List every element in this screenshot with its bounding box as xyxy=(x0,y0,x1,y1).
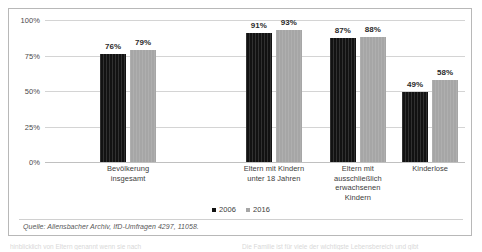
bar-2006-0 xyxy=(100,54,126,162)
legend-swatch-icon xyxy=(212,208,216,212)
bar-value-label: 79% xyxy=(135,38,151,47)
legend-item-2016[interactable]: 2016 xyxy=(246,205,270,214)
bar-2016-1 xyxy=(276,30,302,162)
chart-frame: 100%75%50%25%0%76%91%87%49%79%93%88%58% … xyxy=(8,8,472,236)
chart-legend: 20062016 xyxy=(9,205,473,214)
category-label-1: Eltern mit Kindern unter 18 Jahren xyxy=(244,164,305,183)
bar-value-label: 88% xyxy=(365,25,381,34)
category-label-2: Eltern mit ausschließlich erwachsenen Ki… xyxy=(334,164,382,202)
bar-value-label: 93% xyxy=(281,18,297,27)
bar-2016-2 xyxy=(360,37,386,162)
bar-value-label: 76% xyxy=(105,42,121,51)
legend-label: 2006 xyxy=(219,205,236,214)
bar-value-label: 87% xyxy=(335,26,351,35)
figure-root: 100%75%50%25%0%76%91%87%49%79%93%88%58% … xyxy=(0,0,482,252)
footer-text-left: hinblicklich von Eltern genannt wenn sie… xyxy=(10,243,225,250)
bar-value-label: 49% xyxy=(407,80,423,89)
legend-label: 2016 xyxy=(253,205,270,214)
bar-value-label: 58% xyxy=(437,68,453,77)
y-axis-tick-label: 50% xyxy=(25,87,40,96)
category-label-0: Bevölkerung insgesamt xyxy=(107,164,149,183)
bar-2006-1 xyxy=(246,33,272,162)
y-axis-tick-label: 25% xyxy=(25,122,40,131)
bar-2006-3 xyxy=(402,92,428,162)
bar-2016-3 xyxy=(432,80,458,162)
bar-2006-2 xyxy=(330,38,356,162)
y-axis-tick-label: 75% xyxy=(25,51,40,60)
category-label-3: Kinderlose xyxy=(412,164,448,174)
y-axis-tick-label: 100% xyxy=(20,16,40,25)
bar-value-label: 91% xyxy=(251,21,267,30)
footer-text-band: hinblicklich von Eltern genannt wenn sie… xyxy=(10,243,472,251)
gridline-0 xyxy=(45,162,465,163)
x-axis-category-labels: Bevölkerung insgesamtEltern mit Kindern … xyxy=(45,164,465,210)
y-axis-tick-label: 0% xyxy=(29,158,40,167)
plot-area: 100%75%50%25%0%76%91%87%49%79%93%88%58% xyxy=(45,20,465,162)
footer-text-right: Die Familie ist für viele der wichtigste… xyxy=(242,243,472,250)
source-note: Quelle: Allensbacher Archiv, IfD-Umfrage… xyxy=(23,223,199,230)
source-separator xyxy=(19,219,463,220)
bar-2016-0 xyxy=(130,50,156,162)
legend-item-2006[interactable]: 2006 xyxy=(212,205,236,214)
legend-swatch-icon xyxy=(246,208,250,212)
bars-layer: 76%91%87%49%79%93%88%58% xyxy=(45,20,465,162)
